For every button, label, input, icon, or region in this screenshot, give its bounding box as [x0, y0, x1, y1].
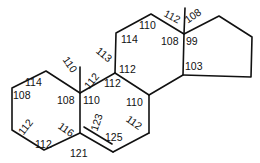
angle-label: 125	[105, 131, 123, 143]
angle-label: 110	[83, 94, 100, 106]
angle-label: 114	[25, 76, 42, 88]
angle-label: 110	[126, 96, 143, 108]
angle-label: 112	[104, 77, 121, 89]
angle-label: 103	[185, 60, 203, 72]
angle-label: 108	[161, 35, 179, 47]
steroid-skeleton-diagram: 1141081121121161081101121101131121121141…	[0, 0, 260, 163]
angle-label: 112	[81, 70, 101, 91]
angle-label: 108	[57, 94, 75, 106]
angle-label: 113	[94, 44, 115, 64]
angle-label: 112	[124, 112, 145, 132]
angle-label: 123	[88, 112, 105, 133]
angle-label: 110	[139, 19, 156, 31]
angle-label: 121	[70, 147, 88, 159]
angle-label: 108	[13, 89, 31, 101]
angle-label: 114	[121, 33, 138, 45]
angle-label: 110	[60, 54, 80, 75]
angle-label: 99	[186, 35, 198, 47]
angle-label: 112	[35, 138, 52, 150]
angle-label: 112	[119, 63, 136, 75]
